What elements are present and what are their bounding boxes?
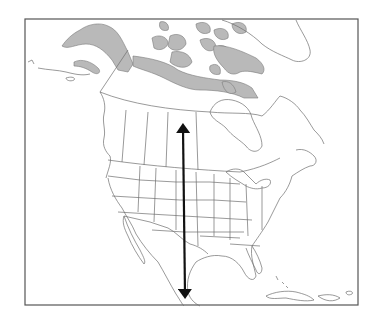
map-figure <box>0 0 372 323</box>
north-america-map <box>0 0 372 323</box>
